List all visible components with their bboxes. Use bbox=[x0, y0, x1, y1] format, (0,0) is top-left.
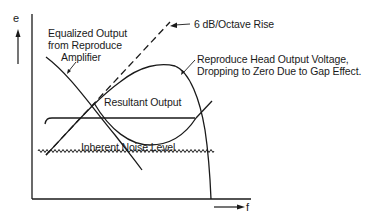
y-axis-label: e bbox=[13, 12, 19, 24]
equalized-label-line2: from Reproduce bbox=[48, 39, 122, 51]
equalized-leader-arrow-icon bbox=[67, 69, 71, 74]
f-arrow-head-icon bbox=[237, 205, 245, 210]
equalized-label-line1: Equalized Output bbox=[48, 27, 127, 39]
head-output-curve bbox=[46, 65, 211, 199]
head-label-line1: Reproduce Head Output Voltage, bbox=[197, 53, 349, 65]
rise-leader bbox=[175, 24, 190, 25]
head-leader bbox=[183, 60, 195, 73]
resultant-output-curve bbox=[45, 118, 195, 124]
equalized-output-curve bbox=[46, 57, 142, 170]
resultant-output-dip bbox=[94, 103, 196, 145]
head-label-line2: Dropping to Zero Due to Gap Effect. bbox=[197, 65, 361, 77]
rise-label: 6 dB/Octave Rise bbox=[194, 18, 274, 30]
noise-label: Inherent Noise Level bbox=[81, 141, 175, 153]
rise-leader-arrow-icon bbox=[170, 23, 177, 29]
resultant-label: Resultant Output bbox=[104, 96, 181, 108]
e-arrow-head-icon bbox=[16, 29, 21, 37]
x-axis-label: f bbox=[246, 201, 249, 213]
equalized-label-line3: Amplifier bbox=[61, 51, 101, 63]
